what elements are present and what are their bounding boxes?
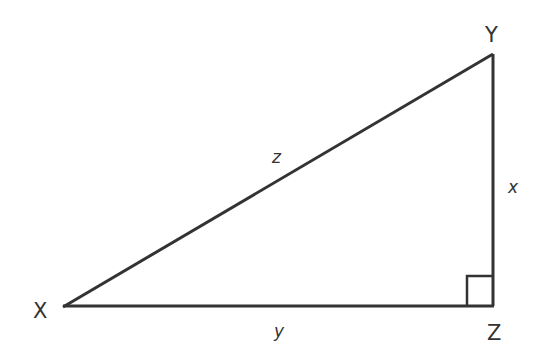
right-triangle-diagram: Y X Z z x y	[0, 0, 540, 360]
side-label-x: x	[507, 177, 519, 197]
triangle	[63, 54, 494, 307]
side-label-y: y	[273, 321, 285, 341]
side-label-z: z	[271, 147, 282, 167]
side-z-hypotenuse	[63, 54, 493, 307]
vertex-label-y: Y	[484, 23, 498, 47]
vertex-label-x: X	[33, 299, 47, 323]
right-angle-marker	[467, 276, 493, 306]
vertex-label-z: Z	[487, 321, 501, 345]
